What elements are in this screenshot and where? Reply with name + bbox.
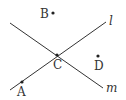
point-a-dot xyxy=(20,80,23,83)
point-d-dot xyxy=(96,54,99,57)
point-c-label: C xyxy=(53,58,62,72)
geometry-diagram: l m A B C D xyxy=(0,0,126,100)
point-b-label: B xyxy=(40,7,49,21)
point-a-label: A xyxy=(16,85,26,99)
point-b-dot xyxy=(51,11,54,14)
point-c-dot xyxy=(55,53,58,56)
point-d-label: D xyxy=(94,59,104,73)
line-m-label: m xyxy=(106,81,117,95)
line-l-label: l xyxy=(109,14,113,28)
